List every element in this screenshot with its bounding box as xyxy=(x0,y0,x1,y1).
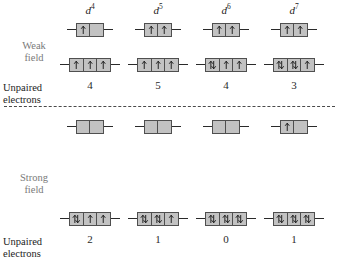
orbital-box-group xyxy=(137,58,179,72)
strong-field-unpaired-count: 2 xyxy=(54,233,126,245)
orbital-leader-line-right xyxy=(104,29,113,30)
weak-field-unpaired-count: 4 xyxy=(190,79,262,91)
orbital-leader-line-left xyxy=(264,218,273,219)
electron-configuration-label: d5 xyxy=(122,4,194,16)
orbital-box-group xyxy=(76,120,105,134)
orbital-leader-line-left xyxy=(128,218,137,219)
strong-field-unpaired-count: 1 xyxy=(122,233,194,245)
orbital-leader-line-left xyxy=(271,29,280,30)
orbital-box-up-electron xyxy=(164,58,179,72)
orbital-box-up-electron xyxy=(96,58,111,72)
config-column-3: d731 xyxy=(258,0,330,271)
weak-field-unpaired-count: 3 xyxy=(258,79,330,91)
orbital-leader-line-right xyxy=(179,64,188,65)
weak-field-unpaired-count: 4 xyxy=(54,79,126,91)
orbital-box-group xyxy=(69,58,111,72)
weak-field-eg-orbitals xyxy=(122,22,194,37)
orbital-leader-line-right xyxy=(179,218,188,219)
strong-field-t2g-orbitals xyxy=(190,211,262,226)
config-column-0: d442 xyxy=(54,0,126,271)
strong-field-unpaired-count: 0 xyxy=(190,233,262,245)
orbital-box-group xyxy=(212,120,241,134)
orbital-box-empty xyxy=(157,120,172,134)
config-superscript: 7 xyxy=(295,2,299,11)
electron-configuration-label: d7 xyxy=(258,4,330,16)
orbital-leader-line-right xyxy=(315,64,324,65)
orbital-leader-line-right xyxy=(240,126,249,127)
orbital-box-group xyxy=(280,120,309,134)
strong-field-t2g-orbitals xyxy=(122,211,194,226)
orbital-box-group xyxy=(76,23,105,37)
orbital-box-up-electron xyxy=(164,212,179,226)
orbital-box-empty xyxy=(89,23,104,37)
weak-field-t2g-orbitals xyxy=(190,57,262,72)
orbital-box-group xyxy=(212,23,241,37)
orbital-box-group xyxy=(280,23,309,37)
orbital-box-group xyxy=(273,212,315,226)
strong-field-t2g-orbitals xyxy=(54,211,126,226)
orbital-box-up-electron xyxy=(293,23,308,37)
orbital-leader-line-left xyxy=(264,64,273,65)
orbital-leader-line-left xyxy=(196,64,205,65)
config-superscript: 5 xyxy=(159,2,163,11)
config-superscript: 6 xyxy=(227,2,231,11)
weak-field-eg-orbitals xyxy=(54,22,126,37)
weak-field-eg-orbitals xyxy=(190,22,262,37)
crystal-field-diagram: Weak field Unpaired electrons Strong fie… xyxy=(0,0,339,271)
orbital-leader-line-left xyxy=(135,126,144,127)
weak-field-label: Weak field xyxy=(8,40,60,63)
orbital-leader-line-left xyxy=(67,126,76,127)
orbital-box-group xyxy=(69,212,111,226)
orbital-leader-line-right xyxy=(111,218,120,219)
orbital-box-paired-electrons xyxy=(300,212,315,226)
orbital-box-up-electron xyxy=(300,58,315,72)
orbital-box-group xyxy=(144,120,173,134)
strong-field-t2g-orbitals xyxy=(258,211,330,226)
orbital-box-group xyxy=(137,212,179,226)
strong-field-eg-orbitals xyxy=(190,119,262,134)
weak-field-t2g-orbitals xyxy=(122,57,194,72)
weak-field-unpaired-count: 5 xyxy=(122,79,194,91)
orbital-leader-line-left xyxy=(196,218,205,219)
orbital-box-group xyxy=(205,58,247,72)
config-column-2: d640 xyxy=(190,0,262,271)
weak-field-t2g-orbitals xyxy=(54,57,126,72)
orbital-box-empty xyxy=(225,120,240,134)
orbital-box-group xyxy=(273,58,315,72)
orbital-leader-line-left xyxy=(203,29,212,30)
orbital-leader-line-left xyxy=(67,29,76,30)
electron-configuration-label: d4 xyxy=(54,4,126,16)
orbital-leader-line-right xyxy=(240,29,249,30)
config-superscript: 4 xyxy=(91,2,95,11)
orbital-leader-line-right xyxy=(104,126,113,127)
orbital-leader-line-right xyxy=(172,29,181,30)
orbital-box-paired-electrons xyxy=(232,212,247,226)
orbital-leader-line-right xyxy=(111,64,120,65)
orbital-leader-line-left xyxy=(60,64,69,65)
orbital-box-empty xyxy=(89,120,104,134)
orbital-leader-line-right xyxy=(172,126,181,127)
orbital-leader-line-left xyxy=(135,29,144,30)
orbital-box-empty xyxy=(293,120,308,134)
strong-field-eg-orbitals xyxy=(122,119,194,134)
orbital-leader-line-left xyxy=(203,126,212,127)
orbital-leader-line-right xyxy=(247,218,256,219)
orbital-box-up-electron xyxy=(232,58,247,72)
config-column-1: d551 xyxy=(122,0,194,271)
orbital-box-up-electron xyxy=(157,23,172,37)
strong-field-label: Strong field xyxy=(8,172,60,195)
weak-field-eg-orbitals xyxy=(258,22,330,37)
weak-field-t2g-orbitals xyxy=(258,57,330,72)
strong-field-eg-orbitals xyxy=(258,119,330,134)
orbital-box-up-electron xyxy=(96,212,111,226)
orbital-box-up-electron xyxy=(225,23,240,37)
orbital-leader-line-left xyxy=(271,126,280,127)
orbital-leader-line-left xyxy=(128,64,137,65)
orbital-leader-line-right xyxy=(308,126,317,127)
electron-configuration-label: d6 xyxy=(190,4,262,16)
strong-field-unpaired-count: 1 xyxy=(258,233,330,245)
orbital-leader-line-right xyxy=(315,218,324,219)
orbital-box-group xyxy=(144,23,173,37)
orbital-leader-line-left xyxy=(60,218,69,219)
orbital-leader-line-right xyxy=(308,29,317,30)
